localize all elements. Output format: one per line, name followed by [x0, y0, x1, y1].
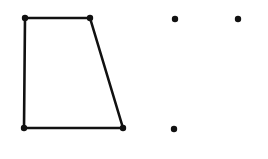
point-dot-1 [172, 16, 178, 22]
trapezoid-shape [24, 18, 123, 128]
vertex-dot-3 [120, 125, 126, 131]
point-dot-2 [235, 16, 241, 22]
trapezoid-vertices [21, 15, 126, 131]
vertex-dot-2 [87, 15, 93, 21]
vertex-dot-1 [22, 15, 28, 21]
vertex-dot-4 [21, 125, 27, 131]
loose-points [171, 16, 241, 132]
point-dot-3 [171, 126, 177, 132]
geometry-figure [0, 0, 268, 159]
figure-canvas [0, 0, 268, 159]
